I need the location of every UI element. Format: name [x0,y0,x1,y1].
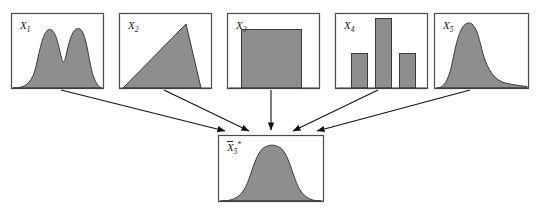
figure-canvas [0,0,538,209]
panel-xbar5-label: X5* [227,142,241,153]
arrow-from-x5 [317,90,470,131]
panel-x2-label: X2 [128,20,138,31]
panel-x4-bar-2 [376,19,392,89]
arrow-from-x4 [293,90,378,131]
panel-x4-label: X4 [344,20,354,31]
panel-x2-label-base: X [128,19,135,31]
panel-x3-label: X3 [236,20,246,31]
panel-x4-bar-1 [352,54,368,89]
panel-xbar5-label-base: X [227,142,234,153]
panel-x4-label-sub: 4 [351,25,355,34]
panel-xbar5-label-sup: * [237,140,241,149]
panel-x5-label-base: X [443,19,450,31]
panel-x1-label: X1 [20,20,30,31]
central-limit-theorem-figure: X1 X2 X3 X4 X5 X5* [0,0,538,209]
panel-x5-label: X5 [443,20,453,31]
panel-x1-label-sub: 1 [27,25,31,34]
arrow-from-x1 [61,90,225,131]
panel-x4-bar-3 [400,54,416,89]
panel-x3-label-sub: 3 [243,25,247,34]
panel-x3-uniform-block [242,30,302,89]
panel-x3-label-base: X [236,19,243,31]
panel-x2-label-sub: 2 [135,25,139,34]
panel-x4-label-base: X [344,19,351,31]
arrow-group [61,90,470,131]
arrow-from-x2 [164,90,249,131]
panel-x5-label-sub: 5 [450,25,454,34]
panel-x1-label-base: X [20,19,27,31]
